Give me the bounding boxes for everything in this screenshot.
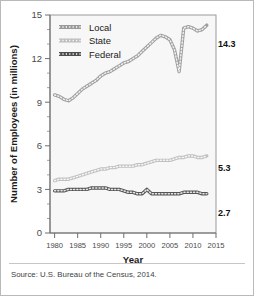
y-tick-label: 15 (31, 9, 42, 20)
employees-line-chart: 03691215 1980198519901995200020052010201… (1, 1, 254, 263)
series-end-value-labels: 14.35.32.7 (218, 39, 236, 218)
y-axis-tick-labels: 03691215 (31, 9, 42, 238)
x-tick-label: 2010 (184, 241, 201, 250)
y-tick-label: 3 (37, 184, 42, 195)
legend-label-state: State (89, 35, 111, 46)
y-tick-label: 12 (31, 53, 42, 64)
x-tick-label: 1985 (69, 241, 86, 250)
x-axis-ticks (55, 233, 216, 238)
y-axis-ticks (45, 15, 50, 233)
legend-label-local: Local (89, 22, 111, 33)
legend-label-federal: Federal (89, 49, 121, 60)
x-axis-tick-labels: 19801985199019952000200520102015 (46, 241, 224, 250)
y-tick-label: 9 (37, 97, 42, 108)
chart-figure: 03691215 1980198519901995200020052010201… (0, 0, 254, 296)
x-tick-label: 1995 (115, 241, 132, 250)
x-tick-label: 2015 (208, 241, 225, 250)
y-tick-label: 0 (37, 227, 42, 238)
value-label-federal: 2.7 (218, 208, 231, 218)
source-divider (9, 263, 245, 264)
x-tick-label: 1980 (46, 241, 63, 250)
source-note: Source: U.S. Bureau of the Census, 2014. (11, 270, 157, 279)
x-tick-label: 1990 (92, 241, 109, 250)
x-tick-label: 2000 (138, 241, 155, 250)
y-axis-title: Number of Employees (in millions) (8, 45, 19, 203)
x-tick-label: 2005 (161, 241, 178, 250)
value-label-state: 5.3 (218, 163, 231, 173)
plot-area-background (50, 15, 216, 233)
value-label-local: 14.3 (218, 39, 236, 49)
x-axis-title: Year (123, 254, 144, 263)
y-tick-label: 6 (37, 140, 42, 151)
